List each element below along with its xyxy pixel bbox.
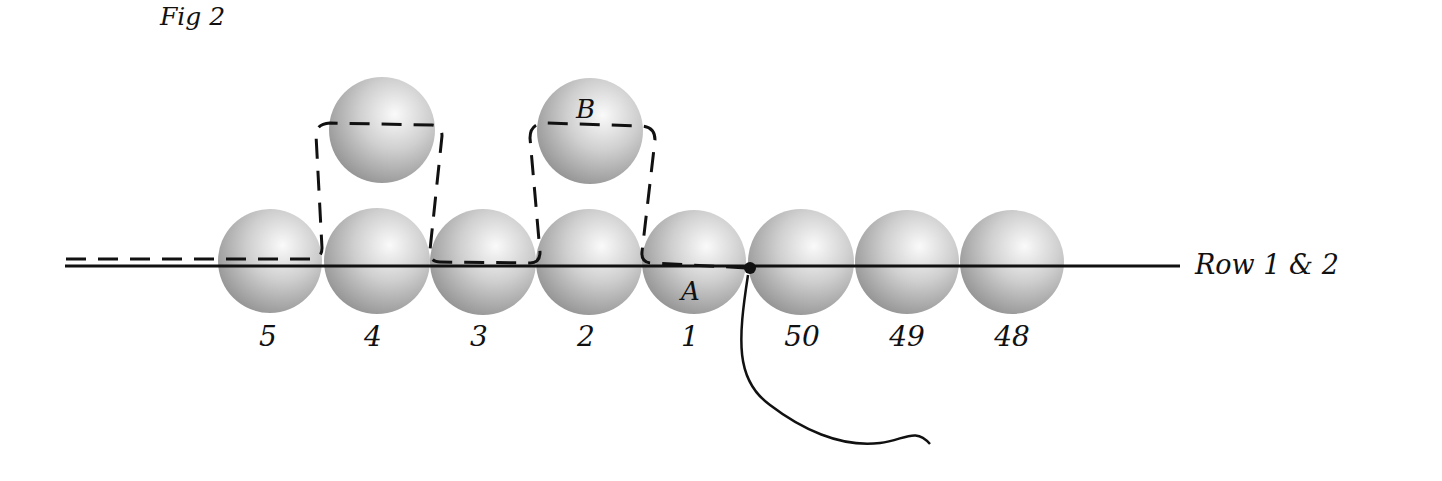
bead-number-50: 50 xyxy=(772,320,832,353)
bead-number-4: 4 xyxy=(343,320,403,353)
bead-number-5: 5 xyxy=(238,320,298,353)
bead-50 xyxy=(748,209,854,315)
bead-row xyxy=(218,208,1064,315)
knot-dot xyxy=(744,262,756,274)
bead-number-2: 2 xyxy=(556,320,616,353)
bead-5 xyxy=(218,209,322,313)
top-bead-over-4 xyxy=(329,77,435,183)
top-beads xyxy=(329,77,643,184)
bead-49 xyxy=(855,210,959,314)
point-a-label: A xyxy=(681,276,700,306)
bead-number-49: 49 xyxy=(877,320,937,353)
point-b-label: B xyxy=(576,94,595,124)
bead-number-3: 3 xyxy=(449,320,509,353)
bead-48 xyxy=(960,210,1064,314)
bead-number-1: 1 xyxy=(660,320,720,353)
beading-diagram: Fig 2 xyxy=(0,0,1442,481)
bead-2 xyxy=(536,209,642,315)
bead-number-48: 48 xyxy=(982,320,1042,353)
bead-4 xyxy=(324,208,430,314)
row-label: Row 1 & 2 xyxy=(1195,249,1339,280)
diagram-canvas xyxy=(0,0,1442,481)
